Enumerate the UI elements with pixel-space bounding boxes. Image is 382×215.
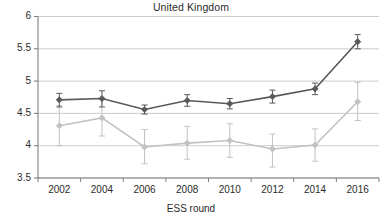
x-axis-group — [38, 178, 379, 182]
x-tick-label: 2016 — [347, 184, 370, 195]
x-tick-label: 2004 — [91, 184, 114, 195]
data-point-marker — [269, 146, 275, 152]
x-tick-label: 2014 — [304, 184, 327, 195]
data-point-marker — [99, 95, 105, 101]
series-dark — [56, 35, 361, 114]
series-group — [56, 35, 361, 167]
x-tick-label: 2010 — [219, 184, 242, 195]
x-tick-label: 2002 — [48, 184, 71, 195]
chart-plot-area: 3.544.555.56 200220042006200820102012201… — [0, 0, 382, 215]
data-point-marker — [184, 97, 190, 103]
y-tick-labels-group: 3.544.555.56 — [17, 10, 31, 183]
y-tick-label: 5 — [25, 75, 31, 86]
y-axis-group — [34, 17, 38, 179]
data-point-marker — [227, 137, 233, 143]
data-point-marker — [227, 101, 233, 107]
gridlines-group — [38, 17, 379, 179]
x-tick-label: 2008 — [176, 184, 199, 195]
data-point-marker — [56, 97, 62, 103]
y-tick-label: 4 — [25, 139, 31, 150]
series-line — [59, 102, 357, 149]
x-tick-labels-group: 20022004200620082010201220142016 — [48, 184, 369, 195]
data-point-marker — [184, 140, 190, 146]
chart-container: United Kingdom 3.544.555.56 200220042006… — [0, 0, 382, 215]
data-point-marker — [141, 106, 147, 112]
y-tick-label: 4.5 — [17, 107, 31, 118]
x-axis-title: ESS round — [0, 203, 382, 214]
y-tick-label: 5.5 — [17, 42, 31, 53]
x-tick-label: 2012 — [261, 184, 284, 195]
data-point-marker — [56, 123, 62, 129]
y-tick-label: 3.5 — [17, 172, 31, 183]
x-tick-label: 2006 — [133, 184, 156, 195]
y-tick-label: 6 — [25, 10, 31, 21]
data-point-marker — [269, 94, 275, 100]
